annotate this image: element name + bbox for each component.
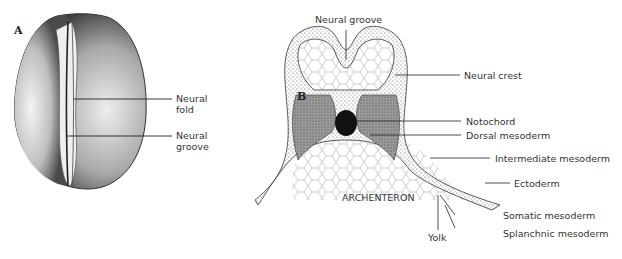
label-yolk: Yolk <box>428 232 447 243</box>
label-notochord: Notochord <box>466 116 515 127</box>
label-neural-fold-line2: fold <box>176 104 207 115</box>
label-neural-groove-a-line2: groove <box>176 141 209 152</box>
label-ectoderm: Ectoderm <box>514 178 560 189</box>
label-neural-fold: Neural fold <box>176 93 207 115</box>
neurula-cross-section <box>255 26 500 210</box>
panel-label-a: A <box>14 24 23 37</box>
embryo-dorsal-view <box>15 14 147 189</box>
label-archenteron: ARCHENTERON <box>342 192 415 203</box>
label-neural-fold-line1: Neural <box>176 93 207 104</box>
label-neural-crest: Neural crest <box>464 70 522 81</box>
label-intermediate-mesoderm: Intermediate mesoderm <box>495 153 610 164</box>
label-splanchnic-mesoderm: Splanchnic mesoderm <box>503 228 608 239</box>
panel-label-b: B <box>297 90 306 103</box>
label-neural-groove-a: Neural groove <box>176 130 209 152</box>
label-neural-groove-a-line1: Neural <box>176 130 209 141</box>
label-neural-groove-b: Neural groove <box>315 14 382 25</box>
label-somatic-mesoderm: Somatic mesoderm <box>503 210 595 221</box>
label-dorsal-mesoderm: Dorsal mesoderm <box>466 130 550 141</box>
